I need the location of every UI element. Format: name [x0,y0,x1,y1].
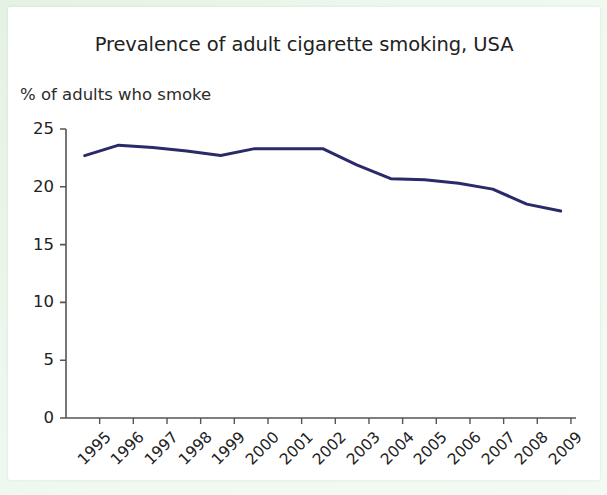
plot-area: 0510152025 19951996199719981999200020012… [8,7,600,480]
chart-card: Prevalence of adult cigarette smoking, U… [8,7,600,480]
axes-group [66,129,576,418]
y-tick-label: 20 [18,179,54,196]
y-tick-label: 0 [18,410,54,427]
y-tick-label: 10 [18,294,54,311]
y-tick-label: 25 [18,121,54,138]
line-chart-svg [8,7,600,480]
y-tick-label: 5 [18,352,54,369]
data-series-group [85,145,561,211]
tick-marks-group [60,129,571,424]
y-tick-label: 15 [18,237,54,254]
outer-frame: Prevalence of adult cigarette smoking, U… [0,0,607,495]
data-line--of-adults-who-smoke [85,145,561,211]
